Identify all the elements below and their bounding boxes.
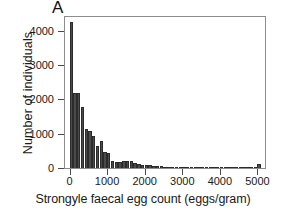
y-axis-tick [58,134,64,135]
y-axis-tick-label: 1000 [30,129,54,140]
plot-area [65,17,265,168]
panel-label-a: A [52,0,63,16]
y-axis-tick-label: 0 [48,163,54,174]
histogram-bar [257,164,260,168]
x-axis-tick-label: 5000 [232,176,282,187]
y-axis-tick [58,65,64,66]
histogram-figure: A Number of individuals Strongyle faecal… [0,0,286,216]
y-axis-tick-label: 2000 [30,94,54,105]
y-axis-tick [58,31,64,32]
y-axis-tick-label: 3000 [30,60,54,71]
x-axis-title: Strongyle faecal egg count (eggs/gram) [0,192,286,206]
y-axis-tick [58,99,64,100]
y-axis-tick-label: 4000 [30,26,54,37]
y-axis-tick [58,168,64,169]
